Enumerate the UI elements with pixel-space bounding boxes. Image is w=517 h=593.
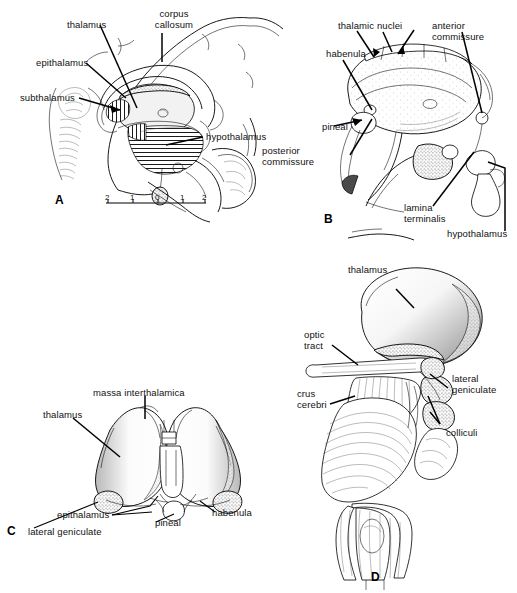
- label-habenula-c: habenula: [212, 507, 252, 518]
- panel-letter-d: D: [371, 570, 380, 584]
- anterior-line1: anterior: [432, 20, 465, 31]
- figure-canvas: [0, 0, 517, 593]
- label-thalamus-a: thalamus: [67, 19, 106, 30]
- crus-line1: crus: [297, 388, 315, 399]
- label-pineal-c: pineal: [155, 517, 181, 528]
- label-subthalamus-a: subthalamus: [20, 92, 75, 103]
- label-epithalamus-a: epithalamus: [36, 57, 88, 68]
- label-thalamus-c: thalamus: [43, 409, 82, 420]
- corpus-line1: corpus: [159, 8, 188, 19]
- crus-line2: cerebri: [297, 399, 327, 410]
- label-optic-tract-d: optic tract: [304, 329, 346, 351]
- corpus-line2: callosum: [155, 19, 193, 30]
- label-posterior-commissure-b: posterior commissure: [262, 145, 334, 167]
- scale-tick-0: 0: [155, 193, 159, 202]
- label-colliculi-d: colliculi: [446, 427, 478, 438]
- leader-thalamus-a: [100, 25, 137, 108]
- posterior-line2: commissure: [262, 156, 314, 167]
- label-hypothalamus-b: hypothalamus: [447, 228, 507, 239]
- panel-letter-b: B: [324, 212, 333, 226]
- panel-a-drawing: [49, 18, 283, 223]
- label-thalamus-d: thalamus: [348, 264, 387, 275]
- lamina-line1: lamina: [404, 202, 433, 213]
- anterior-line2: commissure: [432, 31, 484, 42]
- scale-tick-2r: 2: [202, 193, 206, 202]
- scale-tick-1r: 1: [180, 193, 184, 202]
- label-thalamic-nuclei-b: thalamic nuclei: [338, 20, 402, 31]
- label-massa-interthalamica-c: massa interthalamica: [93, 387, 185, 398]
- latgen-line1: lateral: [452, 373, 479, 384]
- anatomy-figure: thalamus corpus callosum epithalamus sub…: [0, 0, 517, 593]
- label-lamina-terminalis-b: lamina terminalis: [404, 202, 464, 224]
- latgen-line2: geniculate: [452, 384, 496, 395]
- panel-letter-c: C: [7, 524, 16, 538]
- label-pineal-b: pineal: [322, 121, 348, 132]
- panel-letter-a: A: [55, 193, 64, 207]
- label-habenula-b: habenula: [326, 48, 366, 59]
- label-crus-cerebri-d: crus cerebri: [297, 388, 341, 410]
- posterior-line1: posterior: [262, 145, 300, 156]
- label-epithalamus-c: epithalamus: [57, 509, 109, 520]
- optic-line1: optic: [304, 329, 325, 340]
- label-hypothalamus-a: hypothalamus: [206, 131, 266, 142]
- label-lateral-geniculate-c: lateral geniculate: [28, 526, 102, 537]
- lamina-line2: terminalis: [404, 213, 446, 224]
- scale-tick-2l: 2: [105, 193, 109, 202]
- label-lateral-geniculate-d: lateral geniculate: [452, 373, 514, 395]
- label-anterior-commissure-b: anterior commissure: [432, 20, 506, 42]
- label-corpus-callosum-a: corpus callosum: [145, 8, 203, 30]
- scale-tick-1l: 1: [130, 193, 134, 202]
- optic-line2: tract: [304, 340, 323, 351]
